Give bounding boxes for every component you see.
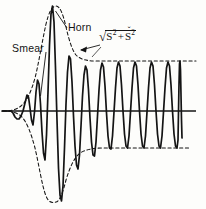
term-shat-squared: ˇS2 — [125, 31, 135, 43]
radicand: S2+ˇS2 — [105, 30, 136, 43]
term-s-exponent: 2 — [113, 28, 117, 37]
formula-arrowhead-icon — [80, 47, 87, 53]
formula-secondary-leader-line — [92, 47, 101, 57]
oscillation-trace — [2, 6, 182, 201]
term-s-squared: S2 — [106, 31, 116, 43]
smear-leader-line — [41, 52, 47, 96]
plus-operator: + — [117, 30, 125, 42]
annotation-label-envelope-amplitude: √S2+ˇS2 — [98, 30, 136, 43]
annotation-label-horn: Horn — [68, 21, 92, 33]
caret-accent-icon: ˇ — [125, 27, 133, 35]
figure-container: Smear Horn √S2+ˇS2 — [0, 0, 206, 209]
annotation-label-smear: Smear — [12, 42, 44, 54]
radical-expression: √S2+ˇS2 — [98, 30, 136, 43]
horn-leader-line — [56, 11, 68, 28]
